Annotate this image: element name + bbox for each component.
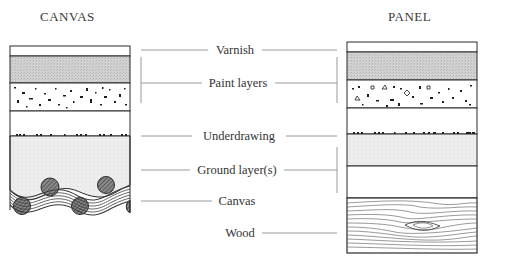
panel-ground-layer-1 [347, 134, 477, 166]
label-underdrawing: Underdrawing [201, 129, 277, 144]
panel-ground-layer-2 [347, 166, 477, 198]
label-wood: Wood [223, 226, 257, 241]
panel-stack [347, 42, 477, 253]
label-paint-layers: Paint layers [207, 76, 270, 91]
panel-paint-layer [347, 52, 477, 80]
canvas-varnish-layer [10, 46, 130, 56]
canvas-pigment-layer [10, 83, 130, 111]
canvas-thread [41, 178, 59, 196]
label-canvas: Canvas [217, 194, 258, 209]
panel-varnish-layer [347, 42, 477, 52]
canvas-stack [10, 46, 130, 215]
label-varnish: Varnish [214, 43, 256, 58]
panel-pigment-layer [347, 80, 477, 108]
canvas-underdrawing-space [10, 111, 130, 136]
canvas-paint-layer [10, 56, 130, 83]
canvas-thread [98, 177, 115, 194]
label-ground-layers: Ground layer(s) [195, 163, 279, 178]
panel-underdrawing-space [347, 108, 477, 134]
panel-wood-layer [347, 198, 477, 253]
